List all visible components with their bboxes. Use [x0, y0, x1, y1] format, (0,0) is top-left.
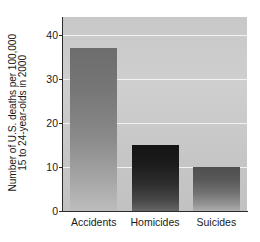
y-axis-tick-mark — [59, 35, 63, 36]
y-axis-tick-label: 0 — [52, 205, 58, 217]
x-axis-line — [62, 211, 248, 212]
bar-suicides — [193, 167, 240, 211]
y-axis-title-line-2: 15 to 24-year-olds in 2000 — [18, 55, 28, 171]
y-axis-tick-label: 30 — [46, 73, 58, 85]
y-axis-tick-label: 10 — [46, 161, 58, 173]
bar-accidents — [70, 48, 117, 211]
y-axis-tick-mark — [59, 123, 63, 124]
x-axis-tick-label: Accidents — [71, 216, 117, 228]
x-axis-tick-labels: AccidentsHomicidesSuicides — [63, 214, 247, 238]
y-axis-tick-label: 40 — [46, 29, 58, 41]
gridline — [63, 35, 247, 37]
bar-chart-figure: Number of U.S. deaths per 100,000 15 to … — [0, 0, 260, 242]
bar-homicides — [132, 145, 179, 211]
x-axis-tick-label: Suicides — [196, 216, 236, 228]
y-axis-tick-mark — [59, 167, 63, 168]
y-axis-tick-mark — [59, 79, 63, 80]
y-axis-tick-labels: 010203040 — [36, 0, 58, 242]
y-axis-tick-mark — [59, 211, 63, 212]
x-axis-tick-label: Homicides — [130, 216, 179, 228]
plot-area — [63, 17, 247, 211]
y-axis-title: Number of U.S. deaths per 100,000 15 to … — [0, 0, 36, 225]
y-axis-tick-label: 20 — [46, 117, 58, 129]
